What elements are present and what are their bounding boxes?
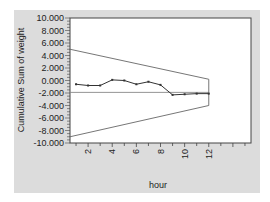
y-tick-label: -10.000	[33, 138, 64, 148]
y-tick-label: -4.000	[38, 101, 64, 111]
y-tick-label: -2.000	[38, 88, 64, 98]
data-point	[75, 83, 77, 85]
data-point	[135, 83, 137, 85]
x-tick-label: 4	[107, 149, 117, 154]
data-point	[160, 84, 162, 86]
x-tick-label: 6	[131, 149, 141, 154]
y-axis-title: Cumulative Sum of weight	[16, 27, 26, 132]
x-tick-label: 8	[156, 149, 166, 154]
data-point	[184, 93, 186, 95]
data-point	[111, 79, 113, 81]
x-tick-label: 10	[180, 149, 190, 159]
y-axis: 10.0008.0006.0004.0002.0000.000-2.000-4.…	[33, 13, 70, 148]
data-point	[87, 85, 89, 87]
y-tick-label: -8.000	[38, 126, 64, 136]
y-tick-label: -6.000	[38, 113, 64, 123]
plot-area	[70, 18, 251, 143]
y-tick-label: 0.000	[41, 76, 64, 86]
cusum-chart: 10.0008.0006.0004.0002.0000.000-2.000-4.…	[0, 0, 270, 202]
y-tick-label: 8.000	[41, 26, 64, 36]
data-point	[208, 93, 210, 95]
data-point	[99, 85, 101, 87]
data-point	[196, 93, 198, 95]
y-tick-label: 6.000	[41, 38, 64, 48]
y-tick-label: 2.000	[41, 63, 64, 73]
data-point	[147, 81, 149, 83]
x-tick-label: 2	[83, 149, 93, 154]
x-axis: 24681012	[76, 143, 245, 159]
x-tick-label: 12	[204, 149, 214, 159]
data-point	[172, 94, 174, 96]
x-axis-title: hour	[149, 180, 167, 190]
data-point	[123, 80, 125, 82]
y-tick-label: 10.000	[36, 13, 64, 23]
y-tick-label: 4.000	[41, 51, 64, 61]
